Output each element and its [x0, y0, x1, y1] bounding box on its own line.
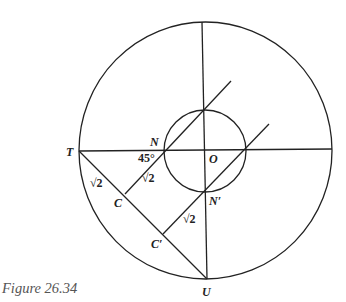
horizontal-diameter: [79, 149, 332, 151]
label-T: T: [66, 145, 74, 159]
label-N: N: [149, 135, 160, 149]
label-C-prime: C′: [151, 237, 162, 251]
label-N-prime: N′: [208, 194, 221, 208]
line-CN: [125, 81, 231, 194]
label-sqrt2-CpNp: √2: [183, 212, 196, 226]
figure-caption: Figure 26.34: [2, 280, 77, 297]
line-CpNp: [163, 124, 269, 234]
label-angle-45: 45°: [138, 151, 155, 165]
label-sqrt2-TC: √2: [90, 176, 103, 190]
label-C: C: [114, 196, 123, 210]
label-sqrt2-CN: √2: [142, 171, 155, 185]
label-O: O: [209, 152, 218, 166]
label-U: U: [202, 285, 212, 299]
geometry-diagram: T N O N′ C C′ U 45° √2 √2 √2: [0, 0, 346, 302]
